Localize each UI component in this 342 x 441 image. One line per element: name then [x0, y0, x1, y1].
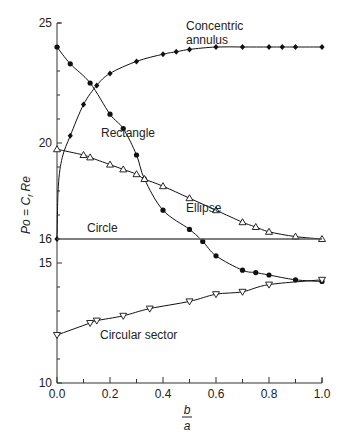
marker-filled-diamond: [174, 49, 179, 55]
marker-filled-circle: [187, 227, 192, 232]
label-circle: Circle: [87, 221, 118, 235]
marker-filled-diamond: [319, 44, 324, 50]
x-tick-label: 0.4: [155, 387, 172, 401]
marker-open-triangle-up: [239, 219, 246, 225]
label-concentric-2: annulus: [186, 33, 228, 47]
marker-filled-circle: [240, 268, 245, 273]
marker-filled-diamond: [280, 44, 285, 50]
y-axis-title-po: Po = C: [19, 197, 33, 234]
marker-filled-diamond: [187, 46, 192, 52]
labels-layer: Concentric annulus Rectangle Ellipse Cir…: [19, 19, 243, 433]
y-tick-label: 25: [39, 16, 53, 30]
chart: 10151620250.00.20.40.60.81.0 Concentric …: [0, 0, 342, 441]
marker-filled-circle: [134, 152, 139, 157]
y-tick-label: 15: [39, 256, 53, 270]
x-axis-title-num: b: [184, 403, 191, 417]
x-tick-label: 1.0: [314, 387, 331, 401]
x-tick-label: 0.6: [208, 387, 225, 401]
marker-filled-circle: [160, 208, 165, 213]
series-layer: [54, 44, 326, 339]
label-rectangle: Rectangle: [101, 126, 155, 140]
marker-filled-circle: [107, 112, 112, 117]
marker-filled-circle: [54, 44, 59, 49]
marker-filled-diamond: [134, 58, 139, 64]
y-tick-label: 20: [39, 136, 53, 150]
marker-filled-circle: [88, 80, 93, 85]
marker-filled-circle: [213, 253, 218, 258]
series-circular-sector: [54, 277, 326, 338]
marker-filled-circle: [253, 270, 258, 275]
label-concentric-1: Concentric: [186, 19, 243, 33]
x-tick-label: 0.0: [49, 387, 66, 401]
marker-filled-diamond: [81, 102, 86, 108]
x-tick-label: 0.8: [261, 387, 278, 401]
marker-filled-circle: [266, 272, 271, 277]
marker-filled-diamond: [266, 44, 271, 50]
marker-filled-diamond: [240, 44, 245, 50]
label-ellipse: Ellipse: [186, 201, 222, 215]
x-tick-label: 0.2: [102, 387, 119, 401]
series-rectangle: [54, 44, 324, 284]
axes: 10151620250.00.20.40.60.81.0: [39, 16, 331, 401]
marker-open-triangle-up: [186, 195, 193, 201]
line-rectangle: [57, 47, 322, 281]
marker-filled-diamond: [68, 133, 73, 139]
marker-filled-diamond: [107, 70, 112, 76]
label-circular-sector: Circular sector: [100, 328, 177, 342]
y-tick-label: 16: [39, 232, 53, 246]
y-axis-title-re: Re: [19, 176, 33, 195]
marker-filled-circle: [68, 61, 73, 66]
line-circular-sector: [57, 280, 322, 335]
x-axis-title-den: a: [184, 419, 191, 433]
marker-open-triangle-up: [54, 146, 61, 152]
y-axis-title: Po = Cf Re: [19, 176, 35, 234]
marker-filled-diamond: [160, 51, 165, 57]
marker-filled-diamond: [293, 44, 298, 50]
